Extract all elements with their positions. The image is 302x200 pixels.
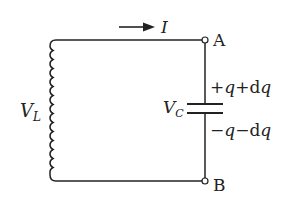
terminal-b-label: B [213, 175, 226, 195]
current-label: I [160, 17, 168, 37]
current-arrow-icon [143, 23, 155, 32]
inductor-coil [50, 40, 56, 181]
inductor-voltage-label: VL [20, 100, 41, 124]
capacitor-voltage-label: VC [163, 97, 184, 120]
terminal-b-node [202, 178, 208, 184]
bottom-plate-charge-label: −q−dq [210, 120, 271, 140]
terminal-a-label: A [212, 30, 226, 50]
terminal-a-node [202, 37, 208, 43]
lc-circuit-diagram: I A B VL VC +q+dq −q−dq [0, 0, 302, 200]
top-plate-charge-label: +q+dq [210, 77, 271, 97]
